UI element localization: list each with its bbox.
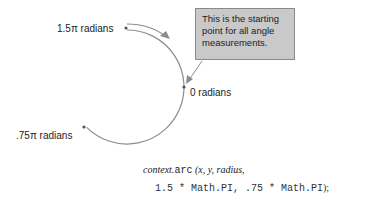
direction-arrowhead-icon (160, 31, 170, 39)
point-zero (182, 85, 185, 88)
callout-text: This is the starting point for all angle… (202, 13, 279, 48)
label-start-angle: 1.5π radians (57, 23, 113, 34)
code-line-2-args: 1.5 * Math.PI, .75 * Math.PI (155, 183, 323, 194)
code-line-2: 1.5 * Math.PI, .75 * Math.PI); (155, 182, 329, 194)
point-end (82, 125, 85, 128)
code-object: context. (143, 164, 174, 175)
label-end-angle: .75π radians (16, 130, 72, 141)
code-line-2-end: ); (323, 182, 329, 193)
point-start (124, 26, 127, 29)
code-args: (x, y, radius, (192, 164, 244, 175)
label-zero: 0 radians (190, 87, 231, 98)
callout-pointer (189, 61, 202, 80)
code-line-1: context.arc (x, y, radius, (143, 164, 245, 176)
callout-box: This is the starting point for all angle… (195, 8, 295, 60)
arc-path (87, 30, 184, 144)
code-method: arc (174, 165, 192, 176)
